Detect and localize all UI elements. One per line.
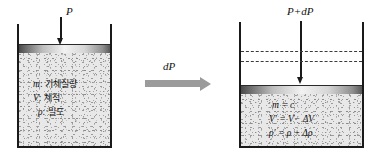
right-pressure-label: P+dP bbox=[287, 6, 313, 17]
right-equation-mass: m = c bbox=[272, 99, 294, 112]
left-property-volume-separator: : bbox=[39, 93, 42, 103]
left-cylinder-wall-right bbox=[110, 24, 112, 148]
right-pressure-arrow-head bbox=[297, 77, 303, 84]
right-equation-volume: V′ = V− ΔV bbox=[269, 113, 314, 126]
right-equation-density: ρ′ = ρ + Δρ bbox=[269, 127, 312, 140]
piston-cylinder-figure: P m: 기체질량 V: 체적 ρ: 밀도 dP bbox=[0, 0, 373, 156]
left-pressure-label: P bbox=[66, 6, 73, 17]
left-property-density-text: 밀도 bbox=[48, 107, 64, 117]
right-cylinder-wall-right bbox=[362, 22, 364, 148]
left-property-mass: m: 기체질량 bbox=[33, 78, 77, 91]
process-arrow-head bbox=[200, 77, 211, 91]
left-property-volume: V: 체적 bbox=[33, 92, 60, 105]
left-property-density: ρ: 밀도 bbox=[38, 106, 64, 119]
right-pressure-arrow-shaft bbox=[300, 21, 302, 79]
right-dashed-reference-line-upper bbox=[241, 51, 362, 52]
left-property-density-separator: : bbox=[43, 107, 46, 117]
right-dashed-reference-line-lower bbox=[241, 61, 362, 62]
left-property-mass-text: 기체질량 bbox=[45, 79, 77, 89]
left-cylinder-floor bbox=[17, 146, 112, 148]
process-label: dP bbox=[163, 61, 175, 72]
left-property-mass-symbol: m bbox=[33, 79, 40, 89]
process-arrow-shaft bbox=[145, 80, 201, 87]
left-property-mass-separator: : bbox=[40, 79, 43, 89]
left-property-volume-text: 체적 bbox=[44, 93, 60, 103]
right-cylinder-floor bbox=[239, 146, 364, 148]
